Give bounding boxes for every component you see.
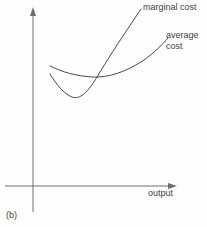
average-cost-label-line1: average xyxy=(166,30,199,40)
marginal-cost-curve xyxy=(50,9,141,98)
x-axis-label: output xyxy=(148,188,173,199)
marginal-cost-label: marginal cost xyxy=(143,2,197,13)
y-axis-arrowhead xyxy=(30,7,36,16)
average-cost-label-line2: cost xyxy=(166,41,183,51)
figure-caption: (b) xyxy=(6,210,17,220)
average-cost-label: averagecost xyxy=(166,30,199,52)
cost-curves-figure: marginal cost averagecost output (b) xyxy=(0,0,207,227)
